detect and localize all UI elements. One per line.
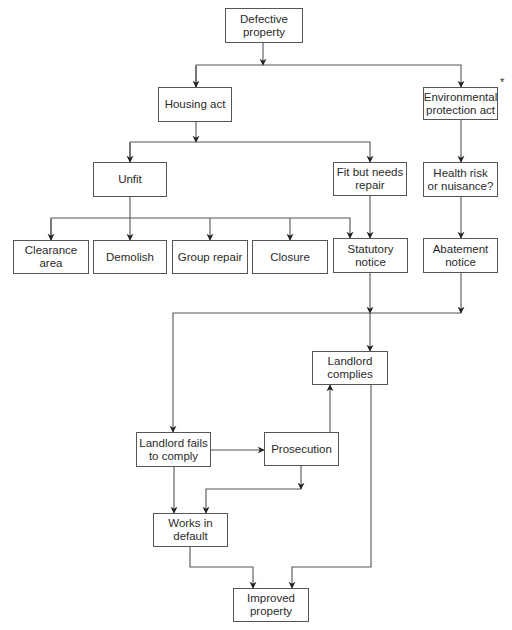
node-abatement-notice: Abatement notice: [423, 238, 498, 273]
node-unfit: Unfit: [93, 162, 167, 197]
node-landlord-complies: Landlord complies: [312, 351, 388, 385]
node-closure: Closure: [252, 240, 328, 274]
node-works-in-default: Works in default: [153, 513, 228, 547]
footnote-asterisk: *: [500, 76, 504, 88]
node-group-repair: Group repair: [172, 240, 248, 274]
node-defective-property: Defective property: [225, 8, 303, 43]
node-housing-act: Housing act: [158, 87, 232, 122]
node-clearance-area: Clearance area: [13, 240, 89, 274]
node-landlord-fails: Landlord fails to comply: [136, 432, 211, 467]
node-improved-property: Improved property: [233, 588, 309, 622]
node-prosecution: Prosecution: [264, 432, 339, 466]
node-fit-but-needs-repair: Fit but needs repair: [333, 162, 407, 196]
flowchart-canvas: Defective property Housing act Environme…: [0, 0, 512, 630]
node-environmental-protection-act: Environmental protection act: [423, 87, 498, 120]
node-health-risk: Health risk or nuisance?: [423, 162, 498, 197]
node-statutory-notice: Statutory notice: [333, 238, 408, 273]
node-demolish: Demolish: [93, 240, 167, 274]
